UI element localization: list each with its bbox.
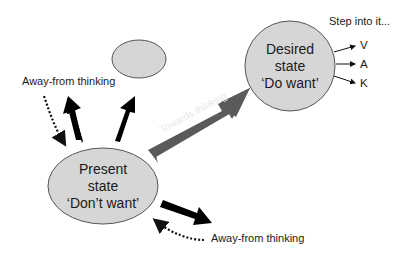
desired-state-text: Desired state ‘Do want’: [245, 41, 335, 92]
diagram-canvas: [0, 0, 406, 258]
desired-line-1: Desired: [245, 41, 335, 58]
vak-arrow-k: [334, 76, 355, 83]
desired-line-3: ‘Do want’: [245, 75, 335, 92]
present-line-3: ‘Don’t want’: [48, 195, 158, 212]
vak-v: V: [360, 40, 368, 52]
small-oval-node: [112, 40, 166, 78]
present-state-text: Present state ‘Don’t want’: [48, 161, 158, 212]
away-arrow-up-left: [63, 96, 83, 143]
vak-k: K: [360, 78, 368, 90]
vak-a: A: [360, 59, 368, 71]
away-from-label-top: Away-from thinking: [22, 76, 115, 87]
desired-line-2: state: [245, 58, 335, 75]
step-into-label: Step into it...: [329, 16, 390, 27]
present-line-2: state: [48, 178, 158, 195]
vak-arrow-v: [334, 46, 355, 52]
present-line-1: Present: [48, 161, 158, 178]
dotted-arrow-top: [44, 96, 64, 143]
away-arrow-down-right: [160, 200, 212, 225]
away-arrow-up-right: [115, 96, 135, 142]
away-from-label-bottom: Away-from thinking: [211, 233, 304, 244]
